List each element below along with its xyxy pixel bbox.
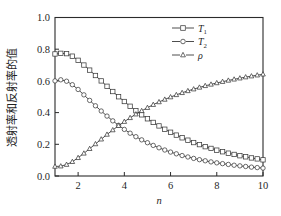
data-point-marker [181, 52, 186, 56]
data-point-marker [180, 136, 184, 140]
y-tick-label: 0.4 [37, 107, 51, 118]
data-point-marker [122, 127, 126, 131]
data-point-marker [105, 84, 109, 88]
data-point-marker [134, 134, 138, 138]
data-point-marker [53, 52, 57, 56]
data-point-marker [111, 119, 115, 123]
data-point-marker [181, 26, 186, 31]
data-point-marker [197, 157, 201, 161]
data-point-marker [174, 133, 178, 137]
data-point-marker [59, 78, 63, 82]
data-point-marker [105, 132, 110, 136]
data-point-marker [111, 89, 115, 93]
data-point-marker [157, 146, 161, 150]
data-point-marker [203, 144, 207, 148]
data-point-marker [76, 58, 80, 62]
data-point-marker [139, 138, 143, 142]
series-group [53, 51, 266, 170]
x-axis-ticks: 246810 [75, 172, 268, 191]
data-point-marker [249, 156, 253, 160]
data-point-marker [255, 165, 259, 169]
data-point-marker [261, 72, 266, 76]
data-point-marker [116, 95, 120, 99]
chart-legend: T1T2ρ [172, 23, 208, 61]
data-point-marker [128, 115, 133, 119]
x-tick-label: 4 [122, 180, 128, 191]
data-point-marker [168, 130, 172, 134]
y-tick-label: 0.2 [37, 139, 50, 150]
x-tick-label: 6 [168, 180, 173, 191]
data-point-marker [53, 79, 57, 83]
data-point-marker [168, 150, 172, 154]
data-point-marker [76, 87, 80, 91]
data-point-marker [93, 104, 97, 108]
data-point-marker [226, 162, 230, 166]
data-point-marker [203, 159, 207, 163]
data-point-marker [209, 160, 213, 164]
data-point-marker [186, 155, 190, 159]
data-point-marker [255, 157, 259, 161]
data-point-marker [82, 63, 86, 67]
data-point-marker [99, 109, 103, 113]
data-point-marker [174, 152, 178, 156]
legend-label-T1: T1 [198, 23, 207, 36]
data-point-marker [191, 140, 195, 144]
x-tick-label: 2 [75, 180, 80, 191]
data-point-marker [186, 138, 190, 142]
data-point-marker [191, 156, 195, 160]
data-point-marker [99, 79, 103, 83]
data-point-marker [145, 117, 149, 121]
data-point-marker [197, 142, 201, 146]
data-point-marker [139, 113, 143, 117]
data-point-marker [122, 119, 127, 123]
data-point-marker [145, 141, 149, 145]
data-point-marker [238, 164, 242, 168]
legend-label-T2: T2 [198, 36, 208, 49]
data-point-marker [261, 158, 265, 162]
data-point-marker [64, 51, 68, 55]
data-point-marker [64, 79, 68, 83]
data-point-marker [249, 165, 253, 169]
data-point-marker [243, 164, 247, 168]
x-tick-label: 10 [258, 180, 269, 191]
data-point-marker [87, 98, 91, 102]
y-tick-label: 0.8 [37, 44, 50, 55]
data-point-marker [151, 143, 155, 147]
data-point-marker [209, 146, 213, 150]
data-point-marker [261, 166, 265, 170]
y-axis-title: 透射率和反射率的值 [5, 48, 19, 147]
data-point-marker [215, 148, 219, 152]
data-point-marker [181, 39, 186, 44]
data-point-marker [157, 124, 161, 128]
x-tick-label: 8 [214, 180, 219, 191]
data-point-marker [76, 155, 81, 159]
data-point-marker [163, 148, 167, 152]
y-tick-label: 0.0 [37, 171, 50, 182]
data-point-marker [180, 153, 184, 157]
data-point-marker [87, 68, 91, 72]
data-point-marker [70, 54, 74, 58]
data-point-marker [59, 51, 63, 55]
data-point-marker [128, 104, 132, 108]
data-point-marker [82, 151, 87, 155]
data-point-marker [151, 120, 155, 124]
data-point-marker [82, 93, 86, 97]
x-axis-title: n [156, 195, 161, 206]
data-point-marker [128, 131, 132, 135]
series-line-T1 [55, 53, 263, 160]
data-point-marker [220, 161, 224, 165]
y-tick-label: 0.6 [37, 76, 50, 87]
data-point-marker [122, 99, 126, 103]
data-point-marker [110, 128, 115, 132]
data-point-marker [70, 159, 75, 163]
data-point-marker [220, 150, 224, 154]
y-axis-ticks: 0.00.20.40.60.81.0 [37, 12, 59, 182]
data-point-marker [232, 152, 236, 156]
data-point-marker [70, 83, 74, 87]
chart-canvas: 0.00.20.40.60.81.0 246810 透射率和反射率的值 n T1… [0, 0, 281, 216]
figure-container: 0.00.20.40.60.81.0 246810 透射率和反射率的值 n T1… [0, 0, 281, 216]
data-point-marker [232, 163, 236, 167]
data-point-marker [93, 73, 97, 77]
data-point-marker [243, 155, 247, 159]
data-point-marker [215, 161, 219, 165]
